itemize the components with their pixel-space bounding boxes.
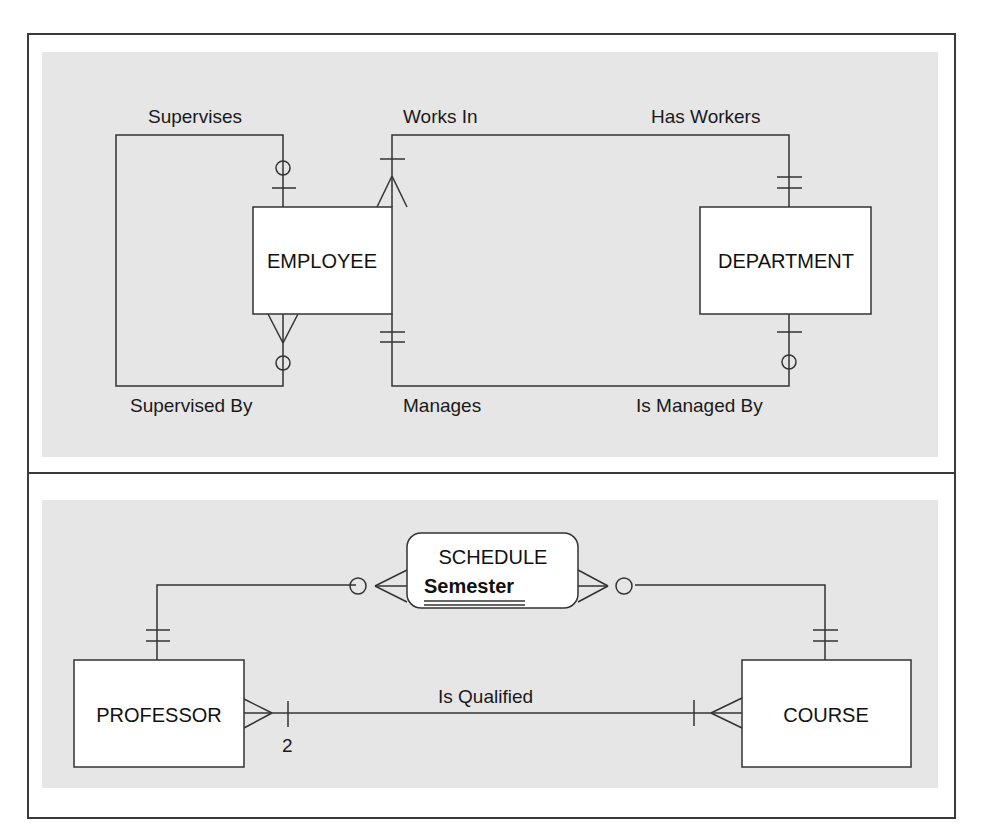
label-supervises: Supervises (148, 106, 242, 127)
optional-circle-icon (350, 578, 366, 594)
manages-relationship-line (380, 314, 802, 386)
schedule-course-line (578, 570, 838, 660)
label-is-qualified: Is Qualified (438, 686, 533, 707)
label-min-cardinality: 2 (282, 735, 293, 756)
course-entity-name: COURSE (783, 704, 869, 726)
crows-foot-icon (268, 314, 283, 343)
professor-entity-name: PROFESSOR (96, 704, 222, 726)
schedule-identifier: Semester (424, 575, 514, 597)
optional-circle-icon (616, 578, 632, 594)
crows-foot-icon (244, 699, 272, 713)
label-has-workers: Has Workers (651, 106, 760, 127)
professor-schedule-line (146, 570, 407, 660)
works-in-relationship-line (377, 135, 802, 207)
department-entity-name: DEPARTMENT (718, 250, 854, 272)
crows-foot-icon (377, 176, 392, 207)
employee-entity-name: EMPLOYEE (267, 250, 377, 272)
label-is-managed-by: Is Managed By (636, 395, 763, 416)
label-manages: Manages (403, 395, 481, 416)
label-supervised-by: Supervised By (130, 395, 253, 416)
er-diagram: Supervises Supervised By Works In Has Wo… (0, 0, 982, 836)
crows-foot-icon (711, 698, 742, 713)
label-works-in: Works In (403, 106, 478, 127)
schedule-entity-name: SCHEDULE (439, 546, 548, 568)
